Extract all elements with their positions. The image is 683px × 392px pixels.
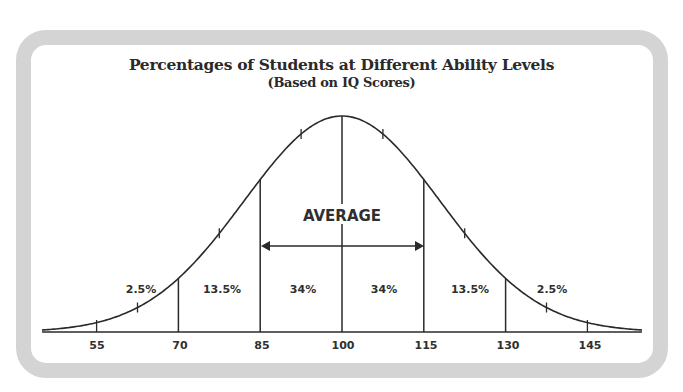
segment-label: 13.5%	[451, 283, 489, 296]
x-tick-label: 115	[415, 339, 438, 352]
average-label: AVERAGE	[303, 207, 381, 225]
segment-label: 2.5%	[537, 283, 568, 296]
segment-label: 34%	[290, 283, 316, 296]
segment-percent-labels: 2.5% 13.5% 34% 34% 13.5% 2.5%	[126, 283, 568, 296]
arrow-left-icon	[261, 241, 270, 251]
bell-curve-chart: AVERAGE 2.5% 13.5% 34% 34% 13.5% 2.5% 55…	[0, 0, 683, 392]
segment-label: 13.5%	[203, 283, 241, 296]
segment-label: 2.5%	[126, 283, 157, 296]
x-tick-label: 130	[497, 339, 520, 352]
x-tick-label: 100	[332, 339, 355, 352]
x-axis-tick-labels: 55 70 85 100 115 130 145	[89, 339, 601, 352]
arrow-right-icon	[415, 241, 424, 251]
x-tick-label: 55	[89, 339, 104, 352]
x-tick-label: 70	[172, 339, 188, 352]
segment-label: 34%	[371, 283, 397, 296]
x-tick-label: 145	[579, 339, 602, 352]
x-tick-label: 85	[254, 339, 269, 352]
